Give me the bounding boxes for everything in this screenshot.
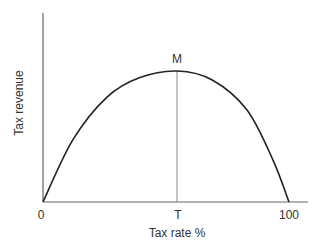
y-axis-label: Tax revenue bbox=[12, 70, 26, 136]
laffer-curve bbox=[43, 71, 289, 202]
x-axis-label: Tax rate % bbox=[149, 226, 206, 240]
laffer-curve-chart: M 0 T 100 Tax rate % Tax revenue bbox=[0, 0, 323, 249]
peak-label: M bbox=[172, 52, 182, 66]
x-tick-zero: 0 bbox=[38, 208, 45, 222]
x-tick-t: T bbox=[174, 208, 182, 222]
chart-canvas: M 0 T 100 Tax rate % Tax revenue bbox=[0, 0, 323, 249]
x-tick-hundred: 100 bbox=[279, 208, 299, 222]
